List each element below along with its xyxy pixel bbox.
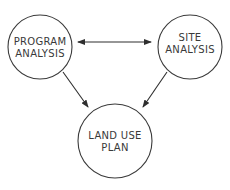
- site-analysis-label-line2: ANALYSIS: [165, 44, 215, 55]
- program-analysis-label-line2: ANALYSIS: [15, 48, 65, 59]
- arrow-site-to-landuse: [143, 72, 167, 107]
- land-use-plan-circle: [78, 104, 152, 178]
- program-analysis-label-line1: PROGRAM: [14, 36, 67, 47]
- flow-diagram: PROGRAM ANALYSIS SITE ANALYSIS LAND USE …: [0, 0, 230, 190]
- land-use-plan-label-line2: PLAN: [101, 142, 128, 153]
- land-use-plan-label-line1: LAND USE: [88, 130, 141, 141]
- program-analysis-circle: [8, 15, 72, 79]
- node-site-analysis: SITE ANALYSIS: [158, 15, 222, 79]
- site-analysis-label-line1: SITE: [179, 32, 202, 43]
- node-program-analysis: PROGRAM ANALYSIS: [8, 15, 72, 79]
- node-land-use-plan: LAND USE PLAN: [78, 104, 152, 178]
- arrow-program-to-landuse: [63, 72, 88, 107]
